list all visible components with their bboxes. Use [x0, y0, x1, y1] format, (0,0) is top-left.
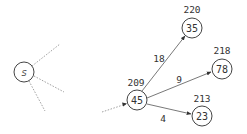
node-45: 209 45 [127, 77, 147, 111]
source-outgoing-dotted-edges [29, 44, 64, 111]
graph-diagram: 18 9 4 s 209 45 220 35 218 78 213 23 [0, 0, 247, 134]
node-label: 35 [186, 23, 198, 34]
edge-weight-45-35: 18 [153, 53, 165, 64]
edge-45-23 [147, 104, 191, 114]
node-distance: 220 [183, 4, 200, 15]
node-label: 78 [216, 64, 228, 75]
node-35: 220 35 [182, 4, 202, 39]
dotted-incoming-edge [102, 104, 126, 112]
node-distance: 218 [213, 45, 230, 56]
node-distance: 213 [193, 93, 210, 104]
dotted-edge-lower [29, 81, 45, 111]
node-label: s [21, 67, 26, 78]
dotted-edge-upper [32, 44, 60, 66]
node-78: 218 78 [212, 45, 232, 80]
node-source: s [14, 62, 34, 82]
node-23: 213 23 [192, 93, 212, 127]
edge-weight-45-23: 4 [160, 113, 166, 124]
arrowhead-icon [122, 103, 127, 107]
node-label: 45 [131, 95, 143, 106]
edge-weight-45-78: 9 [176, 74, 182, 85]
node-distance: 209 [127, 77, 144, 88]
node-label: 23 [196, 111, 208, 122]
dotted-edge-middle [34, 76, 64, 92]
